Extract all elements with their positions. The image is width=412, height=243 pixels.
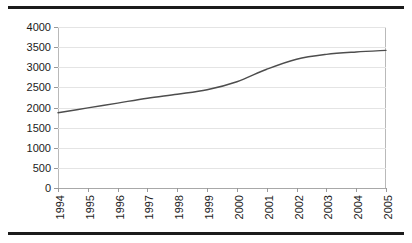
x-axis-tick-label: 2000 xyxy=(233,195,245,219)
x-axis-tick-label: 1996 xyxy=(114,195,126,219)
x-axis-tick-label: 2004 xyxy=(352,195,364,219)
x-axis-tick xyxy=(326,188,327,192)
gridline xyxy=(58,188,386,189)
x-axis-tick-label: 1999 xyxy=(203,195,215,219)
x-axis-tick-label: 1998 xyxy=(173,195,185,219)
x-axis-tick-label: 1995 xyxy=(84,195,96,219)
line-series-layer xyxy=(58,27,386,188)
plot-area: 05001000150020002500300035004000 1994199… xyxy=(58,27,386,188)
x-axis-tick xyxy=(297,188,298,192)
x-axis-tick xyxy=(386,188,387,192)
y-axis-tick-label: 2000 xyxy=(27,102,51,114)
x-axis-tick xyxy=(88,188,89,192)
y-axis-tick-label: 4000 xyxy=(27,21,51,33)
top-rule xyxy=(8,6,404,9)
x-axis-tick xyxy=(58,188,59,192)
x-axis-tick-label: 2002 xyxy=(293,195,305,219)
x-axis-tick-label: 1997 xyxy=(143,195,155,219)
x-axis-tick xyxy=(356,188,357,192)
x-axis-tick-label: 2003 xyxy=(322,195,334,219)
x-axis-tick-label: 1994 xyxy=(54,195,66,219)
x-axis-tick xyxy=(147,188,148,192)
x-axis-tick xyxy=(207,188,208,192)
line-series-path xyxy=(58,50,386,112)
y-axis-tick-label: 1500 xyxy=(27,122,51,134)
x-axis-tick-label: 2005 xyxy=(382,195,394,219)
x-axis-tick xyxy=(118,188,119,192)
y-axis-tick-label: 2500 xyxy=(27,81,51,93)
x-axis-tick xyxy=(267,188,268,192)
x-axis-tick xyxy=(237,188,238,192)
y-axis-tick-label: 0 xyxy=(45,182,51,194)
x-axis-tick-label: 2001 xyxy=(263,195,275,219)
x-axis-tick xyxy=(177,188,178,192)
y-axis-tick-label: 3500 xyxy=(27,41,51,53)
y-axis-tick-label: 3000 xyxy=(27,61,51,73)
bottom-rule xyxy=(8,232,404,235)
y-axis-tick-label: 1000 xyxy=(27,142,51,154)
chart-figure: 05001000150020002500300035004000 1994199… xyxy=(0,0,412,243)
y-axis-tick-label: 500 xyxy=(33,162,51,174)
